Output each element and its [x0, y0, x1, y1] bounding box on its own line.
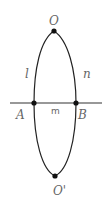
label-O: O: [49, 14, 59, 28]
point-O-prime: [52, 173, 57, 178]
label-B: B: [77, 108, 87, 122]
label-l: l: [25, 67, 29, 81]
label-A: A: [15, 108, 25, 122]
point-A: [31, 100, 36, 105]
diagram-canvas: O O' A B l n m: [0, 0, 107, 200]
label-O-prime: O': [53, 184, 66, 198]
label-m: m: [51, 106, 60, 116]
label-n: n: [83, 67, 91, 81]
point-B: [73, 100, 78, 105]
point-O: [51, 28, 56, 33]
